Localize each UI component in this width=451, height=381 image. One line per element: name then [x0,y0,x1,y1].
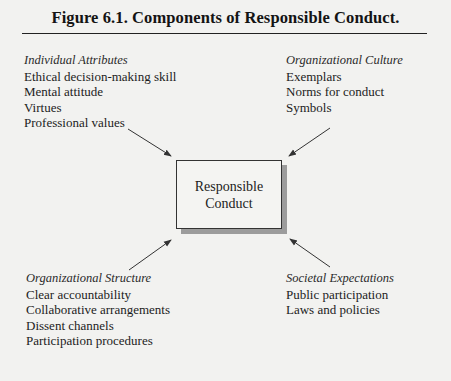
list-item: Mental attitude [24,84,176,100]
arrow-societal-to-center [290,239,330,267]
figure-page: Figure 6.1. Components of Responsible Co… [0,0,451,381]
group-organizational-structure: Organizational Structure Clear accountab… [26,271,170,349]
group-individual-attributes: Individual Attributes Ethical decision-m… [24,53,176,131]
group-organizational-culture: Organizational Culture Exemplars Norms f… [286,53,403,115]
arrow-culture-to-center [289,128,330,156]
arrow-individual-to-center [128,129,171,156]
group-heading: Individual Attributes [24,53,176,69]
group-heading: Societal Expectations [286,271,394,287]
list-item: Laws and policies [286,302,394,318]
list-item: Participation procedures [26,333,170,349]
group-societal-expectations: Societal Expectations Public participati… [286,271,394,318]
figure-title: Figure 6.1. Components of Responsible Co… [0,8,451,28]
list-item: Public participation [286,287,394,303]
title-rule [22,33,427,34]
list-item: Dissent channels [26,318,170,334]
group-heading: Organizational Culture [286,53,403,69]
center-label-line: Conduct [205,195,252,212]
list-item: Virtues [24,100,176,116]
responsible-conduct-box: Responsible Conduct [176,160,282,229]
list-item: Ethical decision-making skill [24,69,176,85]
list-item: Exemplars [286,69,403,85]
list-item: Symbols [286,100,403,116]
arrow-structure-to-center [129,240,171,270]
center-label-line: Responsible [195,178,263,195]
list-item: Collaborative arrangements [26,302,170,318]
list-item: Norms for conduct [286,84,403,100]
list-item: Clear accountability [26,287,170,303]
group-heading: Organizational Structure [26,271,170,287]
list-item: Professional values [24,115,176,131]
